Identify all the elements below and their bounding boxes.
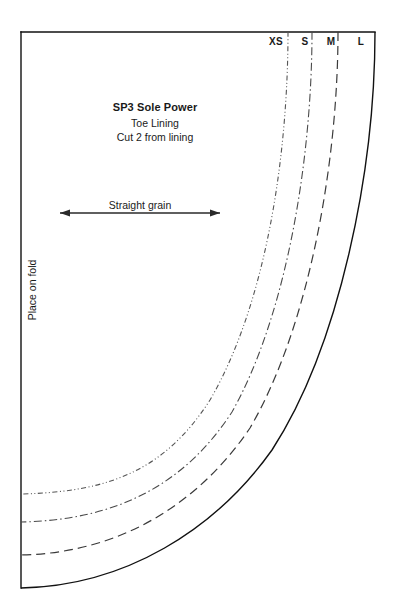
size-label-l: L (358, 36, 365, 49)
piece-name: Toe Lining (113, 117, 198, 130)
pattern-sheet: XS S M L SP3 Sole Power Toe Lining Cut 2… (0, 0, 395, 615)
grain-arrowhead-right (210, 210, 220, 217)
size-label-xs: XS (269, 36, 283, 49)
size-label-s: S (301, 36, 308, 49)
size-label-m: M (327, 36, 336, 49)
pattern-name: SP3 Sole Power (113, 101, 198, 115)
straight-grain-label: Straight grain (109, 199, 171, 212)
title-block: SP3 Sole Power Toe Lining Cut 2 from lin… (113, 101, 198, 144)
pattern-drawing (0, 0, 395, 615)
cutting-line-l (21, 32, 375, 588)
cut-instruction: Cut 2 from lining (113, 131, 198, 144)
grain-arrowhead-left (60, 210, 70, 217)
place-on-fold-label: Place on fold (26, 260, 39, 321)
